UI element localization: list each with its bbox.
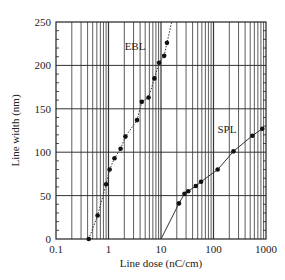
spl-data-point — [250, 133, 255, 138]
ebl-data-point — [152, 76, 157, 81]
x-tick-label: 1000 — [255, 243, 278, 255]
x-tick-label: 0.1 — [49, 243, 63, 255]
x-tick-label: 10 — [156, 243, 168, 255]
y-tick-label: 250 — [35, 16, 52, 28]
spl-data-point — [260, 126, 265, 131]
spl-data-point — [186, 189, 191, 194]
ebl-data-point — [135, 118, 140, 123]
ebl-data-point — [165, 41, 170, 46]
line-width-vs-dose-chart: EBLSPL 0.11101001000050100150200250 Line… — [0, 0, 285, 280]
y-axis-title: Line width (nm) — [9, 94, 22, 166]
ebl-data-point — [104, 182, 109, 187]
y-tick-label: 50 — [40, 190, 52, 202]
spl-data-point — [215, 167, 220, 172]
ebl-data-point — [157, 60, 162, 65]
ebl-data-point — [123, 134, 128, 139]
ebl-data-point — [95, 213, 100, 218]
spl-data-point — [177, 201, 182, 206]
ebl-data-point — [139, 100, 144, 105]
ebl-data-point — [118, 146, 123, 151]
x-axis-title: Line dose (nC/cm) — [120, 257, 203, 270]
y-tick-label: 0 — [46, 233, 52, 245]
y-tick-label: 100 — [35, 146, 52, 158]
ebl-data-point — [107, 167, 112, 172]
ebl-line — [89, 22, 172, 239]
spl-data-point — [193, 184, 198, 189]
ebl-data-point — [146, 95, 151, 100]
data-series: EBLSPL — [86, 22, 264, 241]
ebl-data-point — [162, 54, 167, 59]
x-tick-label: 100 — [205, 243, 222, 255]
ebl-data-point — [86, 237, 91, 242]
spl-series-label: SPL — [217, 123, 236, 135]
ebl-data-point — [112, 156, 117, 161]
spl-data-point — [199, 179, 204, 184]
ebl-series-label: EBL — [125, 40, 146, 52]
spl-data-point — [231, 149, 236, 154]
spl-line — [161, 129, 262, 239]
spl-data-point — [182, 192, 187, 197]
x-tick-label: 1 — [106, 243, 112, 255]
y-tick-label: 150 — [35, 103, 52, 115]
y-tick-label: 200 — [35, 59, 52, 71]
